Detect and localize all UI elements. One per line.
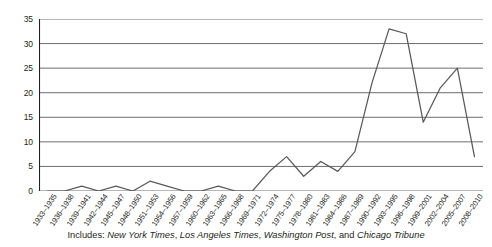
caption-source-wp: Washington Post (264, 230, 334, 240)
caption-prefix: Includes: (67, 230, 107, 240)
y-tick-label: 25 (0, 64, 33, 73)
chart-figure: 05101520253035 1933–19351936–19381939–19… (0, 0, 492, 247)
y-axis: 05101520253035 (0, 19, 33, 191)
y-tick-label: 10 (0, 138, 33, 147)
y-tick-label: 15 (0, 113, 33, 122)
y-tick-label: 30 (0, 40, 33, 49)
caption-sep-3: , and (334, 230, 357, 240)
caption-source-nyt: New York Times (107, 230, 174, 240)
y-tick-label: 5 (0, 162, 33, 171)
y-tick-label: 35 (0, 15, 33, 24)
y-tick-label: 0 (0, 187, 33, 196)
caption-source-ct: Chicago Tribune (357, 230, 425, 240)
caption-source-lat: Los Angeles Times (180, 230, 259, 240)
plot-area (39, 19, 483, 191)
chart-caption: Includes: New York Times, Los Angeles Ti… (0, 229, 492, 241)
y-tick-label: 20 (0, 89, 33, 98)
line-chart-svg (39, 19, 483, 191)
